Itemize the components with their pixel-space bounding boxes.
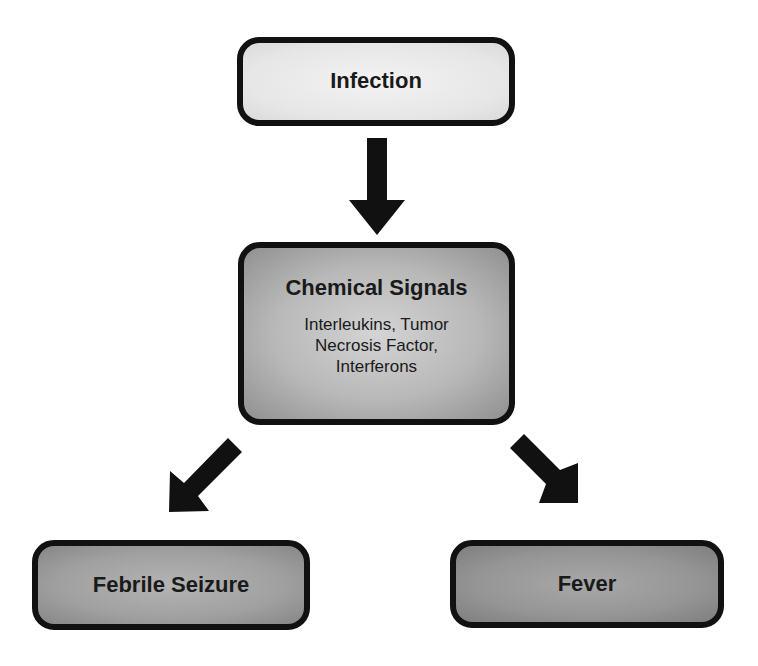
subtitle-line: Interleukins, Tumor [304,314,449,335]
node-chemical-signals: Chemical Signals Interleukins, Tumor Nec… [238,242,515,425]
node-febrile-seizure: Febrile Seizure [32,540,310,630]
node-chemical-signals-subtitle: Interleukins, Tumor Necrosis Factor, Int… [304,314,449,378]
arrow-chemical-to-seizure [169,438,242,512]
subtitle-line: Interferons [304,356,449,377]
node-infection: Infection [237,37,515,126]
node-chemical-signals-title: Chemical Signals [285,275,467,301]
node-fever-title: Fever [558,571,617,597]
arrow-infection-to-chemical [349,138,405,235]
subtitle-line: Necrosis Factor, [304,335,449,356]
node-fever: Fever [450,540,724,628]
arrow-chemical-to-fever [510,434,578,503]
node-febrile-seizure-title: Febrile Seizure [93,572,250,598]
node-infection-title: Infection [330,68,422,94]
